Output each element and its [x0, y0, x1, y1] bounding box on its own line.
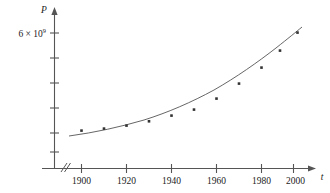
data-point — [215, 97, 218, 100]
data-point — [80, 129, 83, 132]
x-tick-label-1980: 1980 — [252, 176, 271, 186]
data-point — [279, 49, 282, 52]
data-point — [125, 124, 128, 127]
data-point — [193, 108, 196, 111]
data-point — [103, 127, 106, 130]
x-tick-label-2000: 2000 — [286, 176, 305, 186]
data-point — [170, 114, 173, 117]
data-point — [238, 82, 241, 85]
data-point — [296, 31, 299, 34]
x-tick-label-1920: 1920 — [117, 176, 136, 186]
y-tick-label-exponent: 9 — [43, 27, 46, 34]
x-tick-label-1960: 1960 — [207, 176, 226, 186]
y-tick-label-6e9: 6 × 109 — [18, 27, 46, 39]
chart-background — [0, 0, 330, 193]
x-tick-label-1900: 1900 — [72, 176, 91, 186]
y-axis-title: P — [40, 5, 47, 15]
chart-figure: P t 6 × 109 1900 1920 1940 1960 1980 200… — [0, 0, 330, 193]
data-point — [260, 66, 263, 69]
data-point — [148, 120, 151, 123]
y-tick-label-mantissa: 6 × 10 — [18, 29, 43, 39]
x-tick-label-1940: 1940 — [162, 176, 181, 186]
x-axis-title: t — [321, 172, 324, 182]
population-scatter-chart: P t 6 × 109 1900 1920 1940 1960 1980 200… — [0, 0, 330, 193]
